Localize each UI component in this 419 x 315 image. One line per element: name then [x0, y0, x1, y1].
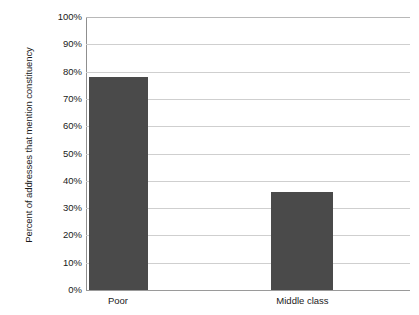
y-tick-label-30: 30%: [38, 203, 82, 213]
gridline-80: [86, 72, 410, 73]
plot-area: [86, 17, 410, 290]
y-tick-label-50: 50%: [38, 149, 82, 159]
bar-poor: [89, 77, 148, 290]
y-axis-tick-labels: 100%90%80%70%60%50%40%30%20%10%0%: [32, 17, 82, 290]
gridline-90: [86, 44, 410, 45]
bar-middle-class: [271, 192, 333, 290]
gridline-100: [86, 17, 410, 18]
y-tick-label-40: 40%: [38, 176, 82, 186]
y-tick-label-60: 60%: [38, 121, 82, 131]
bar-chart-figure: Percent of addresses that mention consti…: [0, 0, 419, 315]
y-tick-label-0: 0%: [38, 285, 82, 295]
x-tick-label-middle-class: Middle class: [276, 295, 328, 307]
y-tick-label-100: 100%: [38, 12, 82, 22]
y-tick-label-20: 20%: [38, 230, 82, 240]
x-tick-label-poor: Poor: [108, 295, 128, 307]
y-tick-label-70: 70%: [38, 94, 82, 104]
y-tick-label-10: 10%: [38, 258, 82, 268]
y-tick-label-90: 90%: [38, 39, 82, 49]
y-tick-label-80: 80%: [38, 67, 82, 77]
gridline-0: [86, 290, 410, 291]
